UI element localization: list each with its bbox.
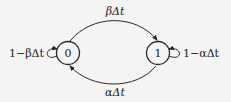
edge-0-to-1 <box>70 21 157 41</box>
state-label-1: 1 <box>155 47 162 60</box>
edge-1-to-0 <box>70 66 156 84</box>
edge-label-alpha: αΔt <box>105 86 125 99</box>
self-loop-label-1: 1−αΔt <box>183 47 220 60</box>
self-loop-0 <box>47 49 57 58</box>
self-loop-1 <box>169 49 180 58</box>
self-loop-label-0: 1−βΔt <box>9 47 45 60</box>
markov-diagram: βΔt αΔt 1−βΔt 1−αΔt 0 1 <box>0 0 231 102</box>
state-label-0: 0 <box>65 47 72 60</box>
edge-label-beta: βΔt <box>105 5 125 18</box>
